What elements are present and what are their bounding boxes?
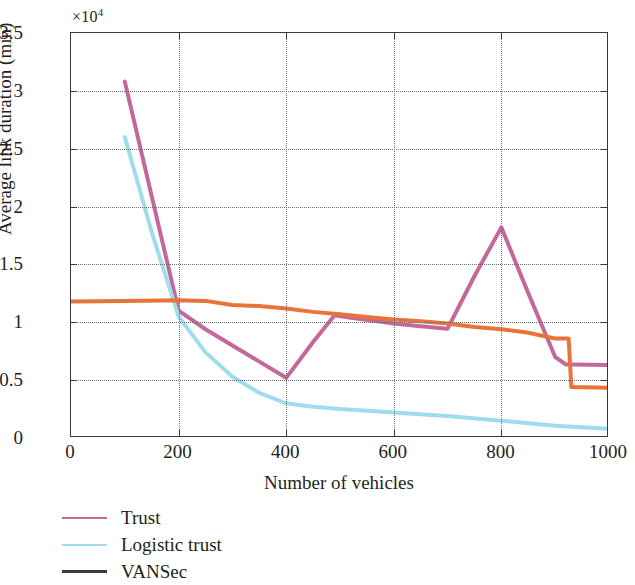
- legend-label: VANSec: [121, 562, 187, 581]
- chart-legend: TrustLogistic trustVANSec: [62, 505, 222, 584]
- y-tick: [71, 380, 77, 381]
- x-tick-label: 800: [440, 442, 560, 461]
- y-tick-label: 1: [0, 312, 23, 331]
- y-tick-right: [601, 91, 607, 92]
- y-tick-label: 0.5: [0, 370, 23, 389]
- series-line: [125, 137, 607, 429]
- y-tick-right: [601, 149, 607, 150]
- y-axis-multiplier-exponent: 4: [98, 6, 104, 18]
- y-tick: [71, 149, 77, 150]
- x-axis-title: Number of vehicles: [70, 472, 608, 494]
- x-tick-top: [394, 33, 395, 39]
- x-tick-top: [501, 33, 502, 39]
- series-lines: [71, 33, 607, 436]
- legend-item: VANSec: [62, 559, 222, 584]
- legend-item: Trust: [62, 505, 222, 530]
- x-tick: [179, 430, 180, 436]
- figure: ×104 Average link duration (min) Number …: [0, 0, 635, 585]
- y-tick-right: [601, 322, 607, 323]
- y-tick-right: [601, 380, 607, 381]
- x-tick-label: 1000: [548, 442, 635, 461]
- x-tick: [286, 430, 287, 436]
- legend-label: Logistic trust: [121, 535, 222, 554]
- x-tick-label: 200: [118, 442, 238, 461]
- y-tick-label: 3.5: [0, 23, 23, 42]
- y-axis-multiplier-base: ×10: [72, 8, 98, 25]
- x-tick-label: 0: [10, 442, 130, 461]
- x-tick: [394, 430, 395, 436]
- y-tick-right: [601, 207, 607, 208]
- legend-item: Logistic trust: [62, 532, 222, 557]
- y-tick-label: 2.5: [0, 138, 23, 157]
- y-tick: [71, 207, 77, 208]
- y-tick: [71, 91, 77, 92]
- y-axis-multiplier: ×104: [72, 6, 103, 26]
- legend-swatch: [62, 570, 107, 573]
- x-tick-label: 400: [225, 442, 345, 461]
- series-line: [71, 300, 607, 387]
- y-tick: [71, 264, 77, 265]
- x-tick-label: 600: [333, 442, 453, 461]
- y-tick-label: 1.5: [0, 254, 23, 273]
- legend-swatch: [62, 517, 107, 519]
- y-tick-label: 3: [0, 80, 23, 99]
- x-tick-top: [286, 33, 287, 39]
- legend-swatch: [62, 544, 107, 546]
- x-tick-top: [179, 33, 180, 39]
- legend-label: Trust: [121, 508, 160, 527]
- plot-inner: [71, 33, 607, 436]
- plot-area: [70, 32, 608, 437]
- x-tick: [501, 430, 502, 436]
- y-tick: [71, 322, 77, 323]
- y-tick-right: [601, 264, 607, 265]
- y-tick-label: 2: [0, 196, 23, 215]
